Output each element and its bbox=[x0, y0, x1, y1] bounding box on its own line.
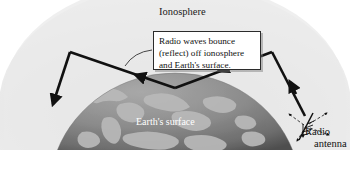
bottom-crop-band bbox=[0, 150, 350, 171]
ionosphere-label: Ionosphere bbox=[159, 6, 206, 18]
callout-text: Radio waves bounce (reflect) off ionosph… bbox=[159, 35, 261, 71]
diagram-canvas bbox=[0, 0, 350, 171]
callout-line-3: and Earth's surface. bbox=[159, 59, 261, 71]
callout-line-1: Radio waves bounce bbox=[159, 35, 261, 47]
callout-line-2: (reflect) off ionosphere bbox=[159, 47, 261, 59]
radio-antenna-label: Radio antenna bbox=[305, 126, 347, 151]
earth-surface-label: Earth's surface bbox=[136, 116, 195, 127]
radio-antenna-label-line2: antenna bbox=[305, 138, 347, 150]
radio-wave-propagation-diagram: Ionosphere Earth's surface Radio antenna… bbox=[0, 0, 350, 171]
radio-antenna-label-line1: Radio bbox=[305, 126, 330, 137]
callout-box: Radio waves bounce (reflect) off ionosph… bbox=[153, 31, 261, 70]
